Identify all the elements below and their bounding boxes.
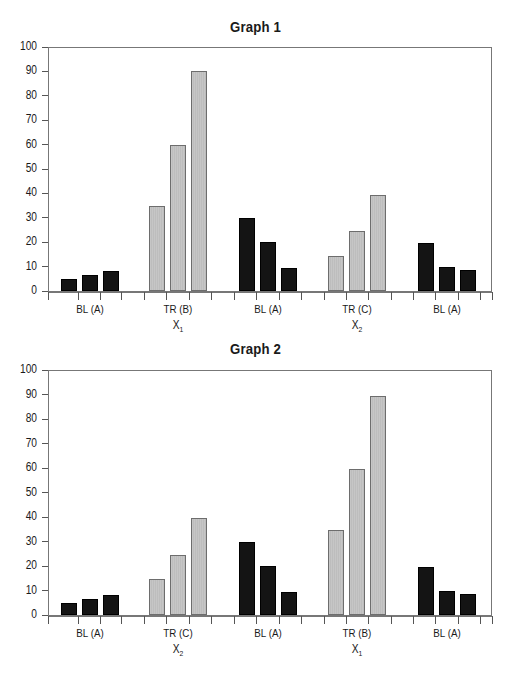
y-tick-label: 50 <box>12 161 38 175</box>
y-tick <box>42 242 48 243</box>
y-tick <box>42 419 48 420</box>
x-tick <box>234 616 235 624</box>
baseline-bar <box>460 270 476 291</box>
y-tick-label: 30 <box>12 534 38 548</box>
y-tick <box>42 541 48 542</box>
x-condition-label: X1 <box>161 318 195 334</box>
x-axis-line <box>48 615 492 617</box>
treatment-bar <box>370 195 386 291</box>
treatment-bar <box>370 396 386 615</box>
x-tick <box>100 292 101 300</box>
x-tick <box>78 292 79 300</box>
baseline-bar <box>281 592 297 615</box>
y-tick <box>42 566 48 567</box>
x-tick <box>78 616 79 624</box>
x-tick <box>234 292 235 300</box>
x-category-label: BL (A) <box>56 627 124 639</box>
baseline-bar <box>61 603 77 615</box>
y-tick <box>42 370 48 371</box>
x-tick <box>301 616 302 624</box>
x-tick <box>480 292 481 300</box>
y-tick-label: 40 <box>12 509 38 523</box>
x-tick <box>458 616 459 624</box>
baseline-bar <box>61 279 77 291</box>
x-category-label: BL (A) <box>56 303 124 315</box>
y-tick-label: 80 <box>12 88 38 102</box>
x-tick <box>211 292 212 300</box>
x-tick <box>413 616 414 624</box>
y-tick <box>42 517 48 518</box>
y-tick <box>42 217 48 218</box>
y-tick <box>42 71 48 72</box>
x-tick <box>121 292 122 300</box>
x-tick <box>435 616 436 624</box>
x-condition-label: X2 <box>161 642 195 658</box>
x-tick <box>346 616 347 624</box>
y-tick <box>42 266 48 267</box>
y-tick <box>42 443 48 444</box>
x-condition-label: X2 <box>340 318 374 334</box>
x-tick <box>346 292 347 300</box>
x-category-label: TR (C) <box>323 303 391 315</box>
x-tick <box>256 616 257 624</box>
x-tick <box>368 616 369 624</box>
baseline-bar <box>439 267 455 291</box>
x-tick <box>144 292 145 300</box>
y-tick <box>42 394 48 395</box>
baseline-bar <box>239 542 255 616</box>
x-tick <box>301 292 302 300</box>
y-tick <box>42 47 48 48</box>
baseline-bar <box>82 275 98 291</box>
y-tick <box>42 193 48 194</box>
x-tick <box>279 292 280 300</box>
x-tick <box>121 616 122 624</box>
baseline-bar <box>103 595 119 615</box>
baseline-bar <box>281 268 297 291</box>
treatment-bar <box>349 231 365 291</box>
y-tick-label: 80 <box>12 411 38 425</box>
treatment-bar <box>349 469 365 615</box>
y-tick-label: 70 <box>12 436 38 450</box>
x-tick <box>324 292 325 300</box>
baseline-bar <box>460 594 476 615</box>
x-category-label: BL (A) <box>234 303 302 315</box>
x-tick <box>435 292 436 300</box>
x-tick <box>279 616 280 624</box>
y-tick-label: 0 <box>12 283 38 297</box>
y-tick-label: 50 <box>12 485 38 499</box>
treatment-bar <box>149 579 165 615</box>
x-tick <box>211 616 212 624</box>
x-tick <box>100 616 101 624</box>
y-tick-label: 10 <box>12 259 38 273</box>
x-category-label: BL (A) <box>234 627 302 639</box>
y-tick-label: 70 <box>12 112 38 126</box>
baseline-bar <box>82 599 98 615</box>
y-tick <box>42 492 48 493</box>
x-tick <box>368 292 369 300</box>
y-tick-label: 10 <box>12 583 38 597</box>
x-category-label: TR (C) <box>144 627 212 639</box>
y-tick-label: 100 <box>12 362 38 376</box>
y-tick-label: 100 <box>12 39 38 53</box>
x-tick <box>189 292 190 300</box>
y-tick <box>42 144 48 145</box>
y-tick-label: 40 <box>12 185 38 199</box>
x-tick <box>413 292 414 300</box>
x-tick <box>480 616 481 624</box>
chart-title: Graph 1 <box>31 18 481 35</box>
x-category-label: BL (A) <box>413 303 481 315</box>
y-tick-label: 90 <box>12 63 38 77</box>
y-tick-label: 20 <box>12 558 38 572</box>
x-tick <box>391 616 392 624</box>
x-tick <box>492 292 493 300</box>
y-tick <box>42 120 48 121</box>
x-category-label: BL (A) <box>413 627 481 639</box>
x-tick <box>458 292 459 300</box>
baseline-bar <box>418 567 434 615</box>
x-tick <box>492 616 493 624</box>
x-tick <box>48 292 49 300</box>
x-tick <box>166 292 167 300</box>
x-tick <box>48 616 49 624</box>
y-tick <box>42 95 48 96</box>
treatment-bar <box>170 555 186 615</box>
